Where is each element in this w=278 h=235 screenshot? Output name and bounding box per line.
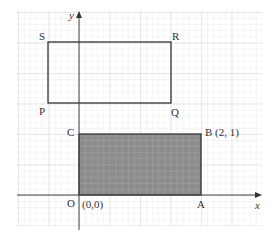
coordinate-diagram: y x S R P Q C B (2, 1) O (0,0) A — [0, 0, 278, 235]
label-origin-coords: (0,0) — [82, 198, 103, 211]
label-C: C — [67, 126, 74, 138]
label-P: P — [39, 105, 45, 117]
label-B: B (2, 1) — [205, 126, 239, 139]
label-Q: Q — [171, 106, 179, 118]
label-A: A — [197, 198, 205, 210]
label-R: R — [172, 30, 180, 42]
x-axis-label: x — [254, 199, 260, 211]
y-axis-label: y — [68, 9, 74, 21]
shaded-rectangle-OABC — [79, 134, 201, 195]
label-S: S — [39, 30, 45, 42]
label-O: O — [67, 197, 75, 209]
